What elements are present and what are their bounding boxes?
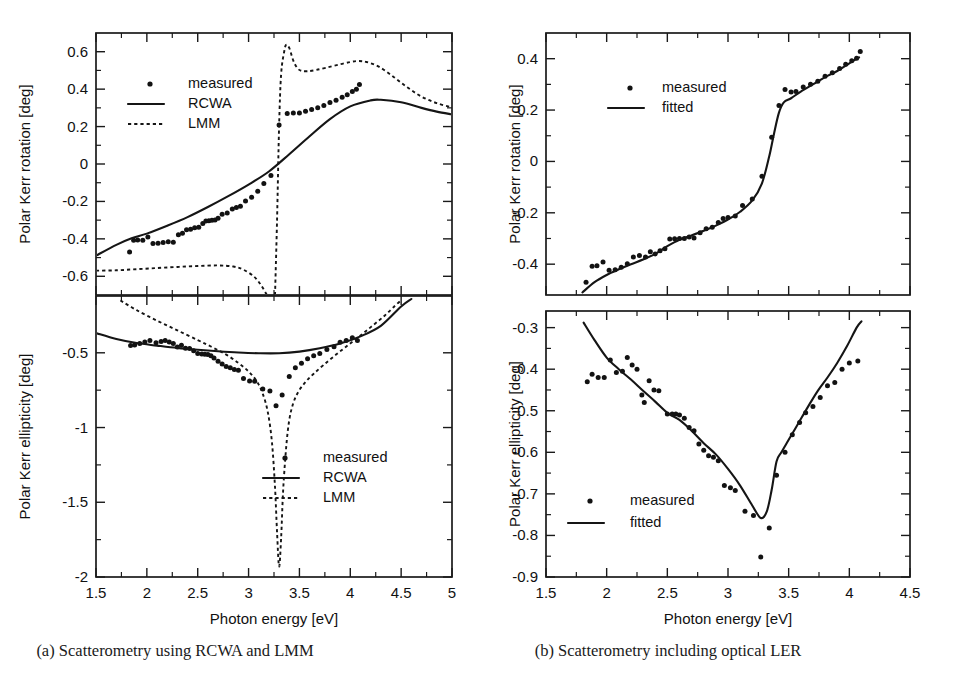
data-point [268, 173, 273, 178]
data-point [789, 90, 794, 95]
data-point [728, 485, 733, 490]
data-point [758, 555, 763, 560]
legend-marker-measured [627, 85, 632, 90]
data-point [299, 361, 304, 366]
data-point [840, 367, 845, 372]
x-axis-title: Photon energy [eV] [664, 610, 792, 627]
y-tick-label: -1 [75, 419, 88, 436]
data-point [648, 249, 653, 254]
y-tick-label: -0.5 [62, 344, 88, 361]
x-tick-label: 2.5 [187, 584, 208, 601]
data-point [166, 239, 171, 244]
data-point [706, 453, 711, 458]
data-point [225, 211, 230, 216]
legend-marker-measured [587, 498, 592, 503]
data-point [625, 355, 630, 360]
legend-label-lmm: LMM [188, 115, 220, 131]
data-point [345, 92, 350, 97]
y-tick-label: 0.2 [67, 118, 88, 135]
data-point [180, 231, 185, 236]
legend-label-rcwa: RCWA [188, 95, 232, 111]
x-tick-label: 3 [244, 584, 252, 601]
data-point [783, 87, 788, 92]
data-point [156, 241, 161, 246]
figure-container: -0.6-0.4-0.200.20.40.6Polar Kerr rotatio… [0, 0, 958, 688]
y-tick-label: 0.4 [517, 50, 538, 67]
data-point [637, 253, 642, 258]
x-tick-label: 3.5 [778, 584, 799, 601]
data-point [354, 87, 359, 92]
legend-label-rcwa: RCWA [323, 469, 367, 485]
data-point [733, 488, 738, 493]
data-point [682, 416, 687, 421]
legend-label-measured: measured [630, 492, 694, 508]
y-tick-label: -0.2 [62, 192, 88, 209]
data-point [317, 351, 322, 356]
data-point [696, 442, 701, 447]
x-tick-label: 1.5 [86, 584, 107, 601]
data-point [261, 181, 266, 186]
caption-a: (a) Scatterometry using RCWA and LMM [36, 641, 314, 660]
data-point [642, 400, 647, 405]
y-tick-label: -2 [75, 568, 88, 585]
legend-label-measured: measured [323, 449, 387, 465]
legend-label-fitted: fitted [630, 514, 661, 530]
data-point [722, 483, 727, 488]
data-point [196, 225, 201, 230]
x-axis-title: Photon energy [eV] [210, 610, 338, 627]
data-point [238, 204, 243, 209]
y-axis-title: Polar Kerr rotation [deg] [506, 84, 523, 243]
data-point [639, 392, 644, 397]
data-point [614, 370, 619, 375]
data-point [647, 378, 652, 383]
data-point [635, 367, 640, 372]
data-point [171, 341, 176, 346]
data-point [701, 448, 706, 453]
data-point [287, 374, 292, 379]
x-tick-label: 3 [724, 584, 732, 601]
data-point [309, 107, 314, 112]
data-point [334, 98, 339, 103]
data-point [161, 240, 166, 245]
data-point [243, 199, 248, 204]
data-point [584, 280, 589, 285]
data-point [596, 375, 601, 380]
y-tick-label: 0 [530, 152, 538, 169]
data-point [305, 356, 310, 361]
data-point [667, 237, 672, 242]
data-point [327, 100, 332, 105]
legend-label-fitted: fitted [662, 99, 693, 115]
data-point [216, 359, 221, 364]
data-point [241, 376, 246, 381]
data-point [291, 111, 296, 116]
data-point [147, 338, 152, 343]
y-tick-label: -0.4 [62, 230, 88, 247]
data-point [267, 388, 272, 393]
data-point [280, 392, 285, 397]
data-point [751, 513, 756, 518]
y-tick-label: 0.4 [67, 80, 88, 97]
y-tick-label: -0.9 [512, 568, 538, 585]
y-tick-label: -0.4 [512, 255, 538, 272]
data-point [179, 343, 184, 348]
x-tick-label: 4 [346, 584, 354, 601]
data-point [303, 109, 308, 114]
data-point [127, 249, 132, 254]
data-point [590, 372, 595, 377]
data-point [651, 387, 656, 392]
data-point [311, 353, 316, 358]
y-tick-label: -1.5 [62, 493, 88, 510]
data-point [810, 404, 815, 409]
y-axis-title: Polar Kerr rotation [deg] [16, 84, 33, 243]
data-point [171, 240, 176, 245]
x-tick-label: 3.5 [289, 584, 310, 601]
legend-label-measured: measured [662, 79, 726, 95]
data-point [274, 403, 279, 408]
data-point [211, 356, 216, 361]
data-point [255, 189, 260, 194]
data-point [711, 455, 716, 460]
data-point [321, 103, 326, 108]
y-tick-label: 0 [80, 155, 88, 172]
data-point [631, 254, 636, 259]
data-point [145, 234, 150, 239]
